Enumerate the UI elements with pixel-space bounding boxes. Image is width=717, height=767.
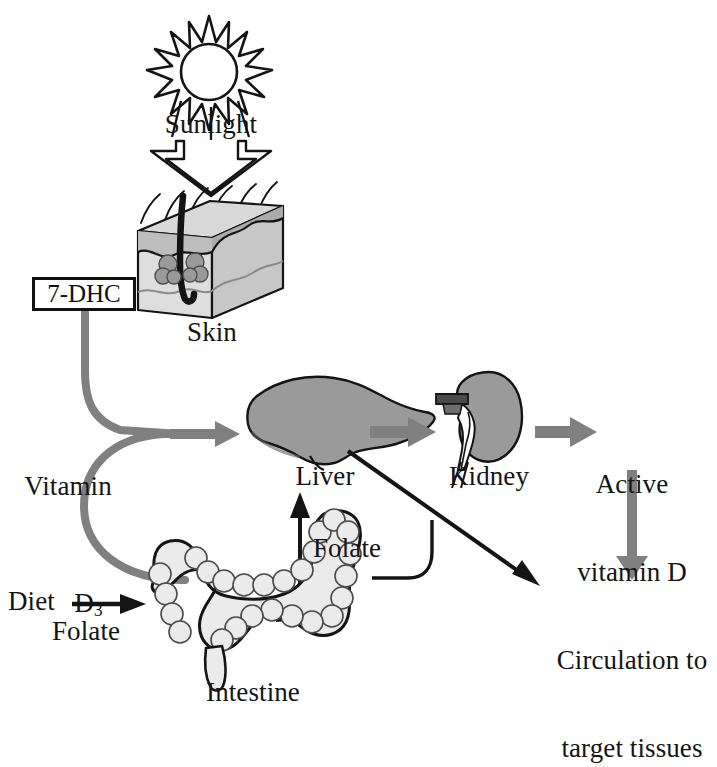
intestine-label: Intestine [206, 678, 300, 707]
down-block-arrow-icon [151, 141, 271, 196]
circulation-line2: target tissues [557, 734, 708, 763]
circulation-line1: Circulation to [557, 646, 708, 675]
skin-cross-section-icon [138, 196, 283, 318]
skin-label: Skin [187, 318, 237, 347]
seven-dhc-box: 7-DHC [32, 277, 136, 311]
kidney-label: Kidney [449, 462, 529, 491]
liver-organ-icon [247, 377, 434, 470]
active-vitamin-d-line1: Active [577, 470, 687, 499]
vitamin-d3-label: Vitamin D3 [8, 414, 128, 708]
folate-liver-label: Folate [313, 534, 381, 563]
liver-label: Liver [296, 462, 355, 491]
sunlight-label: Sunlight [165, 110, 257, 139]
vitamin-d3-letter: D [74, 588, 94, 618]
gray-arrow-icon [170, 421, 240, 447]
diet-label: Diet [8, 587, 55, 616]
vitamin-d3-line1: Vitamin [8, 472, 128, 501]
active-vitamin-d-line2: vitamin D [577, 558, 687, 587]
seven-dhc-label: 7-DHC [47, 280, 121, 308]
folate-diet-label: Folate [52, 617, 120, 646]
circulation-label: Circulation to target tissues [557, 588, 708, 767]
